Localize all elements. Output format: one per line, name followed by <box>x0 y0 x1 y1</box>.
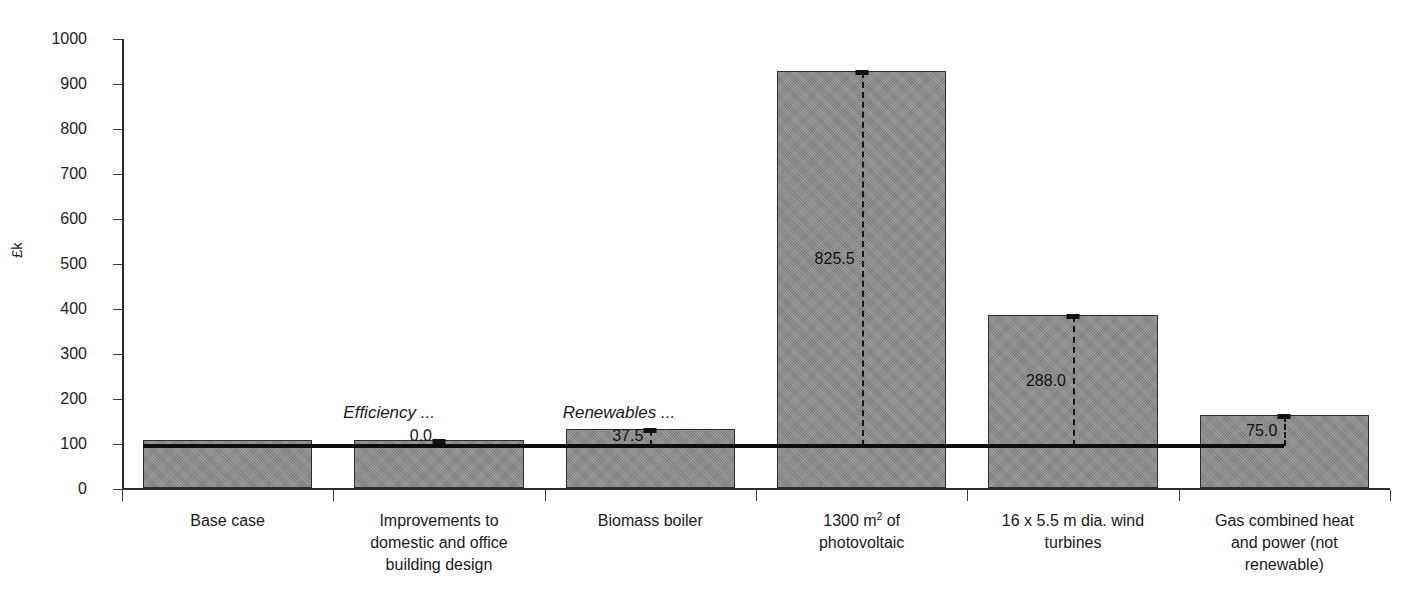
y-tick-mark <box>113 444 122 445</box>
x-tick-mark <box>545 490 546 501</box>
increment-cap-marker <box>1278 414 1291 419</box>
waterfall-bar-chart: £k 10009008007006005004003002001000 0.03… <box>0 0 1406 606</box>
y-tick-mark <box>113 489 122 490</box>
increment-value-label: 0.0 <box>410 428 439 444</box>
y-tick-mark <box>113 174 122 175</box>
x-tick-mark <box>967 490 968 501</box>
increment-connector <box>1284 416 1286 446</box>
plot-area: 10009008007006005004003002001000 0.037.5… <box>122 39 1390 489</box>
category-label-line: domestic and office <box>333 532 544 554</box>
category-label-line: 1300 m2 of <box>756 510 967 532</box>
x-tick-mark <box>756 490 757 501</box>
increment-connector <box>1073 316 1075 446</box>
category-label-line: Improvements to <box>333 510 544 532</box>
increment-value-label: 825.5 <box>815 251 862 267</box>
annotation-renewables: Renewables ... <box>563 403 675 423</box>
y-tick-mark <box>113 39 122 40</box>
y-tick-label: 0 <box>78 481 87 497</box>
annotation-efficiency: Efficiency ... <box>343 403 435 423</box>
y-tick-label: 200 <box>60 391 87 407</box>
y-tick-label: 600 <box>60 211 87 227</box>
increment-cap-marker <box>855 70 868 75</box>
superscript: 2 <box>877 511 883 522</box>
y-tick-label: 300 <box>60 346 87 362</box>
increment-value-label: 288.0 <box>1026 373 1073 389</box>
y-tick-mark <box>113 129 122 130</box>
x-tick-mark <box>1179 490 1180 501</box>
category-label: Gas combined heatand power (notrenewable… <box>1179 510 1390 576</box>
y-tick-mark <box>113 309 122 310</box>
y-tick-label: 900 <box>60 76 87 92</box>
y-tick-label: 400 <box>60 301 87 317</box>
category-label-line: Biomass boiler <box>545 510 756 532</box>
increment-value-label: 75.0 <box>1246 423 1284 439</box>
category-label: Base case <box>122 510 333 532</box>
category-label-line: renewable) <box>1179 554 1390 576</box>
y-tick-label: 800 <box>60 121 87 137</box>
y-tick-mark <box>113 219 122 220</box>
y-axis-line <box>122 39 124 490</box>
x-tick-mark <box>1390 490 1391 501</box>
category-label-line: photovoltaic <box>756 532 967 554</box>
increment-cap-marker <box>1067 314 1080 319</box>
x-tick-mark <box>333 490 334 501</box>
category-label: Biomass boiler <box>545 510 756 532</box>
y-tick-mark <box>113 264 122 265</box>
y-tick-label: 700 <box>60 166 87 182</box>
y-tick-label: 100 <box>60 436 87 452</box>
category-label-line: turbines <box>967 532 1178 554</box>
category-label: 1300 m2 ofphotovoltaic <box>756 510 967 554</box>
x-tick-mark <box>122 490 123 501</box>
base-case-reference-line <box>143 444 1284 448</box>
category-label-line: 16 x 5.5 m dia. wind <box>967 510 1178 532</box>
y-axis-label: £k <box>8 242 25 258</box>
category-label-line: building design <box>333 554 544 576</box>
increment-connector <box>862 72 864 446</box>
category-label: 16 x 5.5 m dia. windturbines <box>967 510 1178 554</box>
y-tick-mark <box>113 399 122 400</box>
y-tick-mark <box>113 354 122 355</box>
increment-value-label: 37.5 <box>612 428 650 444</box>
category-label-line: Base case <box>122 510 333 532</box>
y-tick-mark <box>113 84 122 85</box>
category-label-line: and power (not <box>1179 532 1390 554</box>
y-tick-label: 500 <box>60 256 87 272</box>
category-label-line: Gas combined heat <box>1179 510 1390 532</box>
y-tick-label: 1000 <box>51 31 87 47</box>
category-label: Improvements todomestic and officebuildi… <box>333 510 544 576</box>
